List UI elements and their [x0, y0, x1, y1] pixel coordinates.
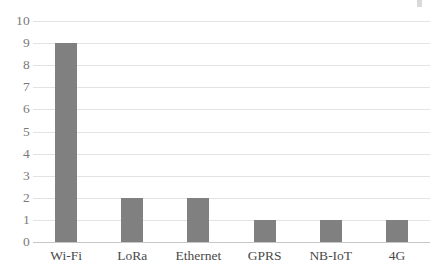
bar: [254, 220, 276, 242]
x-tick-label: GPRS: [248, 246, 282, 266]
x-tick-label: Wi-Fi: [50, 246, 82, 266]
bar-series: [33, 21, 430, 242]
x-tick-label: LoRa: [117, 246, 147, 266]
bar: [55, 43, 77, 242]
y-tick-label: 4: [2, 147, 30, 161]
bar: [386, 220, 408, 242]
y-tick-label: 6: [2, 102, 30, 116]
y-tick-label: 2: [2, 191, 30, 205]
y-axis: 109876543210: [0, 0, 30, 274]
axis-baseline: [33, 242, 430, 243]
bar: [320, 220, 342, 242]
plot-area: [33, 21, 430, 242]
y-tick-label: 8: [2, 58, 30, 72]
bar: [121, 198, 143, 242]
x-tick-label: Ethernet: [176, 246, 222, 266]
x-tick-label: NB-IoT: [309, 246, 352, 266]
bar-chart: 109876543210 Wi-FiLoRaEthernetGPRSNB-IoT…: [0, 0, 441, 274]
y-tick-label: 5: [2, 125, 30, 139]
x-tick-label: 4G: [389, 246, 406, 266]
bar: [187, 198, 209, 242]
y-tick-label: 9: [2, 36, 30, 50]
y-tick-label: 7: [2, 80, 30, 94]
scan-artifact: [417, 0, 422, 7]
x-axis: Wi-FiLoRaEthernetGPRSNB-IoT4G: [33, 246, 430, 270]
y-tick-label: 3: [2, 169, 30, 183]
y-tick-label: 0: [2, 235, 30, 249]
y-tick-label: 10: [2, 14, 30, 28]
y-tick-label: 1: [2, 213, 30, 227]
